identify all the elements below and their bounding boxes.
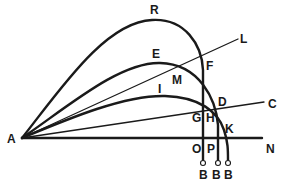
label-H: H (206, 111, 215, 125)
label-F: F (206, 59, 213, 73)
label-B2: B (212, 168, 221, 182)
label-E: E (152, 47, 160, 61)
label-I: I (158, 82, 161, 96)
label-K: K (225, 122, 234, 136)
label-N: N (266, 142, 275, 156)
curve-E (22, 63, 218, 160)
label-B1: B (199, 168, 208, 182)
label-L: L (240, 32, 247, 46)
label-C: C (268, 97, 277, 111)
trajectory-diagram: A R L E M F I D C G H K O P N B B B (0, 0, 281, 192)
label-P: P (207, 142, 215, 156)
endpoint-B3 (226, 161, 231, 166)
label-G: G (192, 111, 201, 125)
label-O: O (192, 142, 201, 156)
label-R: R (150, 3, 159, 17)
label-A: A (7, 132, 16, 146)
label-D: D (218, 95, 227, 109)
endpoint-B2 (216, 161, 221, 166)
endpoint-B1 (201, 161, 206, 166)
label-M: M (172, 73, 182, 87)
label-B3: B (224, 168, 233, 182)
